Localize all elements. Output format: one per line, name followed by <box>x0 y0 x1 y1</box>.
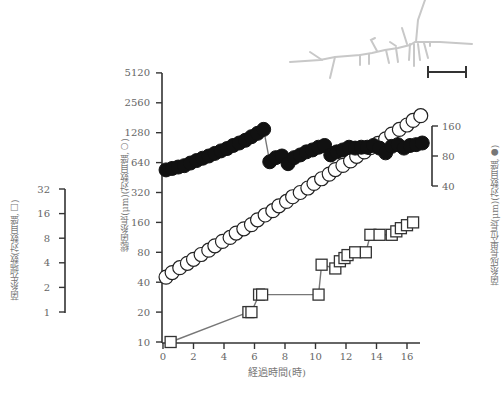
x-tick-label: 16 <box>401 351 414 362</box>
main-y-tick-label: 1280 <box>125 127 150 138</box>
data-point <box>257 289 268 300</box>
x-tick-label: 2 <box>190 351 196 362</box>
data-point <box>408 217 419 228</box>
scale-bar <box>428 66 466 78</box>
x-tick-label: 4 <box>221 351 227 362</box>
main-y-tick-label: 40 <box>137 277 150 288</box>
right-y-axis-title: 菌糸成長単位長(μm)(対数目盛,●) <box>488 145 501 285</box>
main-y-tick-label: 160 <box>131 217 150 228</box>
x-tick-label: 6 <box>251 351 257 362</box>
main-y-tick-label: 2560 <box>125 97 150 108</box>
left-y-tick-label: 32 <box>37 184 50 195</box>
left-y-tick-label: 16 <box>37 208 50 219</box>
right-y-tick-label: 40 <box>442 181 455 192</box>
x-tick-label: 14 <box>370 351 383 362</box>
main-y-tick-label: 10 <box>137 337 150 348</box>
main-y-axis-title: 総菌糸長(μm)(対数目盛,○) <box>118 138 131 251</box>
left-y-axis-title: 菌糸先端数(対数目盛,□) <box>8 200 21 301</box>
hyphae-drawing <box>290 0 472 78</box>
right-y-tick-label: 160 <box>442 121 461 132</box>
main-y-tick-label: 640 <box>131 157 150 168</box>
data-point <box>374 229 385 240</box>
data-point <box>350 247 361 258</box>
data-point <box>415 136 429 150</box>
data-point <box>414 109 428 123</box>
data-point <box>316 259 327 270</box>
data-point <box>165 337 176 348</box>
x-tick-label: 10 <box>309 351 322 362</box>
left-y-tick-label: 4 <box>44 257 50 268</box>
data-point <box>246 307 257 318</box>
main-y-tick-label: 20 <box>137 307 150 318</box>
main-y-tick-label: 320 <box>131 187 150 198</box>
series-open-circle <box>159 109 428 284</box>
series-open-square <box>165 217 418 348</box>
main-y-tick-label: 80 <box>137 247 150 258</box>
left-y-tick-label: 1 <box>44 307 50 318</box>
right-y-tick-label: 80 <box>442 151 455 162</box>
main-y-tick-label: 5120 <box>125 67 150 78</box>
x-tick-label: 0 <box>160 351 166 362</box>
x-tick-label: 12 <box>340 351 353 362</box>
left-y-tick-label: 2 <box>44 282 50 293</box>
data-point <box>360 247 371 258</box>
x-tick-label: 8 <box>282 351 288 362</box>
chart-canvas: 1020408016032064012802560512002468101214… <box>0 0 503 399</box>
data-point <box>257 122 271 136</box>
x-axis-title: 経過時間(時) <box>248 364 306 379</box>
left-y-tick-label: 8 <box>44 233 50 244</box>
data-point <box>313 289 324 300</box>
